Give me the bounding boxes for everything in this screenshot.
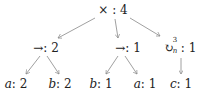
- root-node-product: × : 4: [98, 4, 127, 16]
- product-operator: ×: [98, 3, 108, 17]
- leaf-count: 2: [64, 77, 72, 91]
- edge-root-to-seq2: [58, 18, 95, 38]
- node-sequence-2: →: 2: [33, 42, 59, 54]
- arrow-operator: →: [33, 41, 43, 55]
- loop-subscript: n: [173, 48, 178, 55]
- node-sequence-1: →: 1: [115, 42, 141, 54]
- node-count: 1: [133, 41, 141, 55]
- leaf-node: b: 1: [89, 78, 112, 90]
- leaf-count: 1: [105, 77, 113, 91]
- node-count: 1: [189, 41, 197, 55]
- edge-root-to-rot: [130, 18, 160, 36]
- leaf-node: c: 1: [170, 78, 192, 90]
- leaf-node: a: 2: [5, 78, 28, 90]
- leaf-count: 1: [149, 77, 157, 91]
- edge-root-to-seq1: [115, 19, 118, 38]
- leaf-count: 1: [184, 77, 192, 91]
- leaf-count: 2: [20, 77, 28, 91]
- leaf-variable: b: [89, 77, 97, 91]
- leaf-node: a: 1: [134, 78, 157, 90]
- arrow-operator: →: [115, 41, 125, 55]
- edge-seq1-to-b1: [106, 56, 118, 74]
- edge-seq1-to-a1: [125, 56, 137, 74]
- node-count: 2: [51, 41, 59, 55]
- leaf-variable: b: [48, 77, 56, 91]
- edge-seq2-to-a2: [26, 56, 40, 74]
- node-loop: ↻3n: 1: [164, 42, 197, 54]
- loop-operator: ↻3n: [164, 41, 174, 55]
- edge-seq2-to-b2: [47, 56, 59, 74]
- leaf-variable: c: [170, 77, 177, 91]
- leaf-node: b: 2: [48, 78, 71, 90]
- root-count: 4: [120, 3, 128, 17]
- loop-superscript: 3: [173, 37, 177, 44]
